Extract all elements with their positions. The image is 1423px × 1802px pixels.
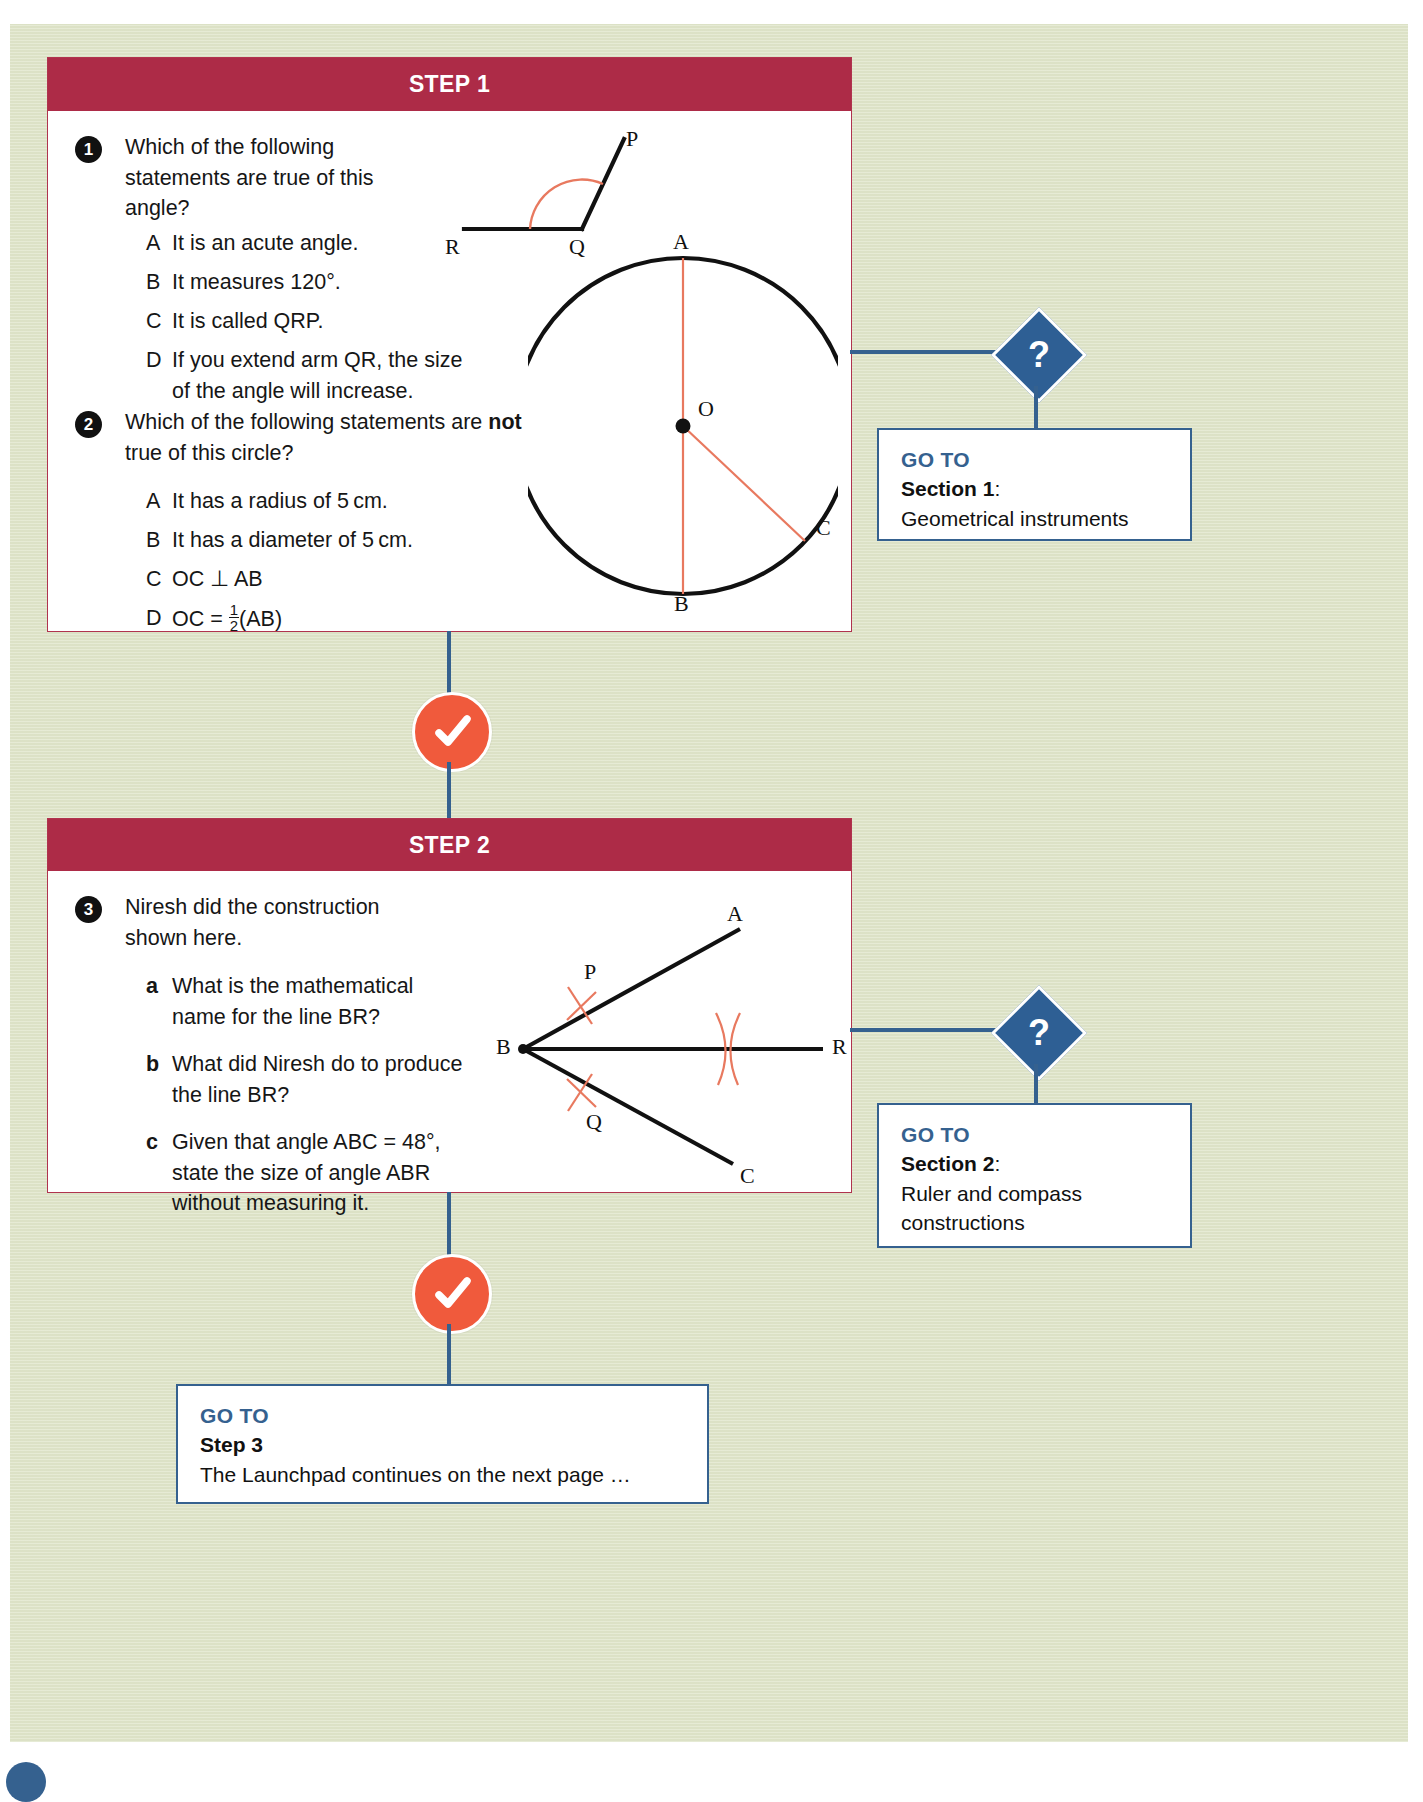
step-2-tick-badge xyxy=(412,1254,492,1334)
circle-point-o-label: O xyxy=(698,396,714,422)
angle-point-r-label: R xyxy=(445,234,460,260)
goto-description: Geometrical instruments xyxy=(901,504,1170,533)
angle-bisector-construction-diagram xyxy=(468,919,858,1179)
option-text: It is an acute angle. xyxy=(172,228,446,259)
construction-point-a-label: A xyxy=(727,901,743,927)
question-2-stem-after: true of this circle? xyxy=(125,441,293,465)
question-3-stem: Niresh did the construction shown here. xyxy=(125,892,435,953)
step-1-tick-badge xyxy=(412,692,492,772)
check-icon xyxy=(430,710,474,754)
step-2-to-badge-connector xyxy=(850,1028,1002,1032)
option-label: B xyxy=(146,525,160,556)
option-label: C xyxy=(146,306,162,337)
step-1-card: STEP 1 1 Which of the following statemen… xyxy=(47,57,852,632)
final-goto-step: Step 3 xyxy=(200,1430,687,1459)
angle-point-p-label: P xyxy=(626,126,638,152)
goto-section: Section 1: xyxy=(901,474,1170,503)
option-text: If you extend arm QR, the size of the an… xyxy=(172,345,486,406)
question-2-option-d: D OC = 12(AB) xyxy=(146,603,476,635)
circle-diagram xyxy=(528,236,838,616)
option-text: It measures 120°. xyxy=(172,267,446,298)
step-1-to-badge-connector xyxy=(850,350,1002,354)
goto-section-colon: : xyxy=(994,477,1000,500)
question-1-option-c: C It is called QRP. xyxy=(146,306,446,337)
part-label: c xyxy=(146,1127,158,1158)
page-number-badge xyxy=(6,1762,46,1802)
check-icon xyxy=(430,1272,474,1316)
step-2-header: STEP 2 xyxy=(48,819,851,871)
goto-label: GO TO xyxy=(901,446,1170,474)
part-text: What did Niresh do to produce the line B… xyxy=(172,1049,466,1110)
option-text: It is called QRP. xyxy=(172,306,446,337)
step-1-goto-box[interactable]: GO TO Section 1: Geometrical instruments xyxy=(877,428,1192,541)
option-label: D xyxy=(146,345,162,376)
option-label: A xyxy=(146,486,160,517)
goto-section-label: Section 1 xyxy=(901,477,994,500)
question-3-number: 3 xyxy=(75,896,102,923)
fraction-one-half: 12 xyxy=(229,602,239,634)
option-text: It has a diameter of 5 cm. xyxy=(172,525,476,556)
question-1-option-b: B It measures 120°. xyxy=(146,267,446,298)
step-2-goto-box[interactable]: GO TO Section 2: Ruler and compass const… xyxy=(877,1103,1192,1248)
question-2-stem-before: Which of the following statements are xyxy=(125,410,488,434)
question-2-option-a: A It has a radius of 5 cm. xyxy=(146,486,476,517)
question-1-option-a: A It is an acute angle. xyxy=(146,228,446,259)
goto-section-label: Section 2 xyxy=(901,1152,994,1175)
circle-point-b-label: B xyxy=(674,591,689,617)
step-2-header-label: STEP 2 xyxy=(409,834,490,857)
option-label: A xyxy=(146,228,160,259)
question-mark-icon: ? xyxy=(1028,1015,1050,1051)
question-1-option-d: D If you extend arm QR, the size of the … xyxy=(146,345,486,406)
question-mark-icon: ? xyxy=(1028,337,1050,373)
construction-point-c-label: C xyxy=(740,1163,755,1189)
step-1-to-tick-connector xyxy=(447,631,451,696)
step-2-badge-to-goto-connector xyxy=(1034,1064,1038,1106)
part-label: b xyxy=(146,1049,159,1080)
question-2-stem: Which of the following statements are no… xyxy=(125,407,525,468)
part-text: What is the mathematical name for the li… xyxy=(172,971,466,1032)
goto-label: GO TO xyxy=(200,1402,687,1430)
question-3-part-a: a What is the mathematical name for the … xyxy=(146,971,466,1032)
option-text: It has a radius of 5 cm. xyxy=(172,486,476,517)
circle-point-a-label: A xyxy=(673,229,689,255)
step-1-badge-to-goto-connector xyxy=(1034,386,1038,431)
question-3-part-c: c Given that angle ABC = 48°, state the … xyxy=(146,1127,476,1219)
option-text: OC ⊥ AB xyxy=(172,564,476,595)
option-label: B xyxy=(146,267,160,298)
goto-section-colon: : xyxy=(994,1152,1000,1175)
goto-description-line-1: Ruler and compass xyxy=(901,1179,1170,1208)
step-2-to-tick-connector xyxy=(447,1192,451,1258)
goto-label: GO TO xyxy=(901,1121,1170,1149)
option-label: C xyxy=(146,564,162,595)
question-2-option-b: B It has a diameter of 5 cm. xyxy=(146,525,476,556)
question-2-stem-bold: not xyxy=(488,410,521,434)
step-2-body: 3 Niresh did the construction shown here… xyxy=(48,871,851,1192)
step-1-body: 1 Which of the following statements are … xyxy=(48,111,851,631)
construction-point-b-label: B xyxy=(496,1034,511,1060)
part-text: Given that angle ABC = 48°, state the si… xyxy=(172,1127,476,1219)
tick-to-step-2-connector xyxy=(447,762,451,820)
construction-point-q-label: Q xyxy=(586,1109,602,1135)
option-text-suffix: (AB) xyxy=(239,607,282,631)
final-goto-step-label: Step 3 xyxy=(200,1433,263,1456)
step-1-header-label: STEP 1 xyxy=(409,73,490,96)
question-1-number: 1 xyxy=(75,136,102,163)
final-goto-box[interactable]: GO TO Step 3 The Launchpad continues on … xyxy=(176,1384,709,1504)
tick-to-final-goto-connector xyxy=(447,1324,451,1386)
circle-point-c-label: C xyxy=(816,515,831,541)
goto-section: Section 2: xyxy=(901,1149,1170,1178)
option-label: D xyxy=(146,603,162,634)
goto-description-line-2: constructions xyxy=(901,1208,1170,1237)
question-1-stem: Which of the following statements are tr… xyxy=(125,132,375,224)
step-2-card: STEP 2 3 Niresh did the construction sho… xyxy=(47,818,852,1193)
step-1-header: STEP 1 xyxy=(48,58,851,111)
question-3-part-b: b What did Niresh do to produce the line… xyxy=(146,1049,466,1110)
construction-point-r-label: R xyxy=(832,1034,847,1060)
final-goto-description: The Launchpad continues on the next page… xyxy=(200,1460,687,1489)
option-text-prefix: OC = xyxy=(172,607,229,631)
question-2-number: 2 xyxy=(75,411,102,438)
construction-point-p-label: P xyxy=(584,959,596,985)
question-2-option-c: C OC ⊥ AB xyxy=(146,564,476,595)
part-label: a xyxy=(146,971,158,1002)
